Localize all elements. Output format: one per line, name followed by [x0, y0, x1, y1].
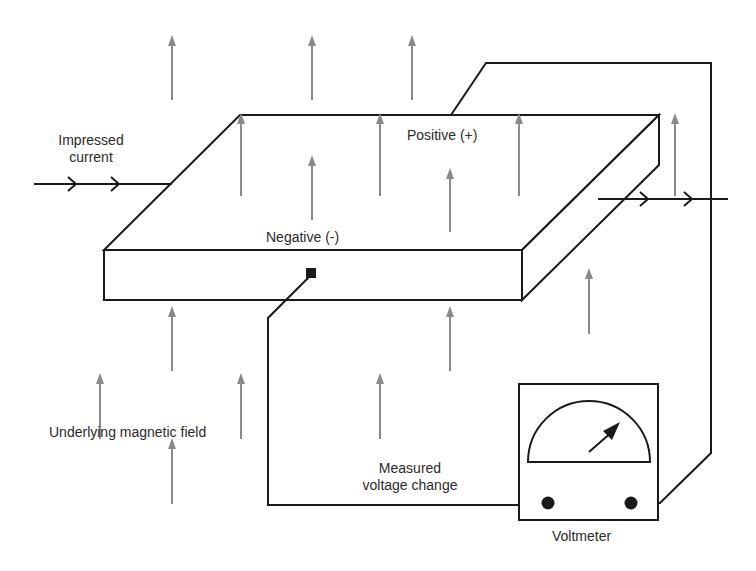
positive-terminal-label: Positive (+): [407, 127, 477, 144]
field-arrowhead-icon: [446, 306, 454, 317]
impressed-current-label: Impressed current: [46, 132, 136, 166]
field-arrowhead-icon: [585, 268, 593, 279]
field-arrowhead-icon: [671, 113, 679, 124]
impressed-current-label-line1: Impressed: [46, 132, 136, 149]
field-arrowhead-icon: [96, 373, 104, 384]
voltmeter-label: Voltmeter: [552, 528, 611, 545]
field-arrowhead-icon: [237, 373, 245, 384]
voltmeter-terminal-right: [625, 497, 638, 510]
measured-voltage-label: Measured voltage change: [340, 460, 480, 494]
negative-probe-contact: [306, 268, 316, 278]
field-arrowhead-icon: [168, 35, 176, 46]
impressed-current-label-line2: current: [46, 149, 136, 166]
field-arrowhead-icon: [376, 373, 384, 384]
field-arrowhead-icon: [408, 35, 416, 46]
measured-voltage-label-line2: voltage change: [340, 477, 480, 494]
field-arrowhead-icon: [168, 306, 176, 317]
magnetic-field-label: Underlying magnetic field: [49, 424, 206, 441]
field-arrowhead-icon: [308, 35, 316, 46]
negative-terminal-label: Negative (-): [266, 229, 339, 246]
measured-voltage-label-line1: Measured: [340, 460, 480, 477]
voltmeter-terminal-left: [542, 497, 555, 510]
